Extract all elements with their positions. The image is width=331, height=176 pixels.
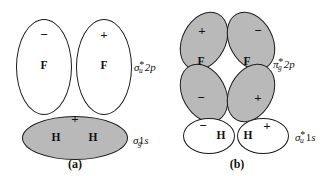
panel-a-sigma-2p-left-sign: −: [37, 28, 51, 41]
panel-b-sigma-1s-right-atom: H: [240, 130, 256, 142]
panel-a-sigma-2p-right-sign: +: [97, 28, 111, 41]
panel-b-sigma-1s-left-sign: −: [196, 119, 210, 132]
panel-b-pi-2p-star: *: [278, 56, 283, 67]
panel-b-pi-2p-atom-left: F: [193, 56, 209, 68]
panel-b-pi-2p-tail: 2p: [284, 58, 295, 70]
panel-b-sigma-1s-right-sign: +: [260, 119, 274, 132]
panel-b-sigma-1s-tail: 1s: [306, 131, 316, 143]
panel-b-caption: (b): [217, 158, 257, 170]
panel-a-sigma-1s-label: σg1s: [133, 133, 148, 148]
panel-b-sigma-1s-star: *: [300, 129, 305, 140]
panel-a-sigma-1s-atom-right: H: [85, 132, 101, 144]
panel-b-pi-2p-upper-right-sign: −: [251, 24, 265, 37]
panel-a-sigma-1s-tail: 1s: [139, 134, 149, 146]
panel-b-pi-2p-upper-left-sign: +: [195, 24, 209, 37]
panel-a-sigma-1s-sign: +: [68, 112, 82, 125]
panel-a-sigma-2p-label: σu*2p: [134, 60, 156, 75]
panel-b-pi-2p-lower-left-sign: −: [194, 91, 208, 104]
panel-a-sigma-2p-tail: 2p: [145, 61, 156, 73]
panel-b-pi-2p-lower-right-sign: +: [251, 91, 265, 104]
panel-a-sigma-2p-right-atom: F: [96, 60, 112, 72]
molecular-orbital-figure: − F + F σu*2p + H H σg1s (a) + − − + F F…: [0, 0, 331, 176]
panel-b-sigma-1s-label: σu*1s: [295, 130, 315, 145]
panel-b-pi-2p-label: πg*2p: [273, 57, 295, 72]
panel-a: − F + F σu*2p + H H σg1s (a): [0, 0, 165, 176]
panel-b-sigma-1s-left-atom: H: [213, 130, 229, 142]
panel-b: + − − + F F πg*2p − H H + σu*1s (b): [165, 0, 331, 176]
panel-a-sigma-2p-left-atom: F: [36, 60, 52, 72]
panel-a-sigma-2p-star: *: [139, 59, 144, 70]
panel-a-sigma-1s-atom-left: H: [48, 132, 64, 144]
panel-a-caption: (a): [55, 158, 95, 170]
panel-b-pi-2p-atom-right: F: [239, 56, 255, 68]
